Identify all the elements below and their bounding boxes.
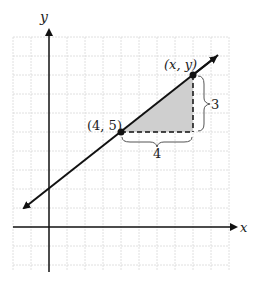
coordinate-diagram: y x (4, 5) (x, y) 3 4 [0,0,264,287]
rise-brace [198,76,210,131]
x-axis-label: x [240,220,248,235]
rise-label: 3 [211,97,219,112]
y-axis-label: y [39,9,49,25]
point-label-x-y: (x, y) [164,57,197,72]
point-x-y [190,72,197,79]
point-label-4-5: (4, 5) [87,118,122,133]
run-label: 4 [153,146,161,161]
